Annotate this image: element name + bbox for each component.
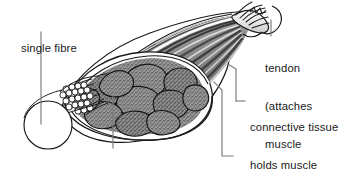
leader-connective-bracket — [228, 64, 236, 101]
leader-muscle-biceps — [214, 82, 233, 156]
label-muscle-biceps-line-1: muscle, e.g. biceps — [238, 174, 337, 175]
label-connective-tissue-line-1: connective tissue — [250, 121, 338, 134]
label-muscle-biceps: muscle, e.g. biceps — [238, 149, 337, 175]
label-single-fibre-line-1: single fibre — [21, 42, 77, 55]
label-single-fibre: single fibre — [21, 17, 77, 80]
label-tendon-line-1: tendon — [265, 62, 312, 75]
muscle-structure-diagram: single fibre tendon (attaches muscle to … — [0, 0, 357, 175]
label-bundle-line-1: bundle of muscle fibres — [19, 174, 137, 175]
label-bundle-of-muscle-fibres: bundle of muscle fibres — [19, 149, 137, 175]
